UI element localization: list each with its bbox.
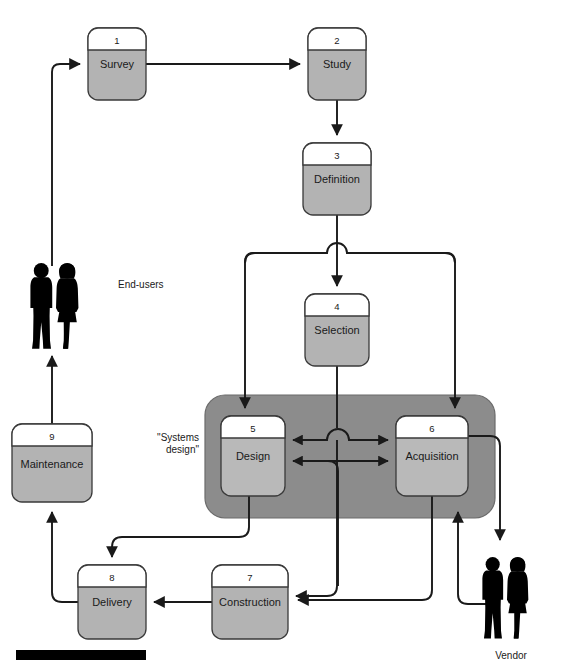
node-design-label: Design — [236, 450, 270, 462]
node-study[interactable]: 2 Study — [308, 28, 366, 100]
node-acquisition[interactable]: 6 Acquisition — [396, 416, 468, 496]
flow-delivery-to-maintenance — [52, 512, 78, 602]
node-acquisition-number: 6 — [429, 423, 434, 434]
node-construction-number: 7 — [247, 572, 252, 583]
node-selection[interactable]: 4 Selection — [305, 294, 369, 366]
flow-diagram: 1 Survey 2 Study 3 Definition 4 — [0, 0, 563, 666]
node-design-number: 5 — [250, 423, 255, 434]
vendor-label: Vendor — [495, 650, 527, 661]
node-definition-number: 3 — [334, 150, 339, 161]
node-survey-number: 1 — [114, 35, 119, 46]
node-construction-label: Construction — [219, 596, 281, 608]
connector-layer — [52, 64, 500, 604]
node-definition[interactable]: 3 Definition — [303, 143, 371, 215]
node-definition-label: Definition — [314, 173, 360, 185]
flow-definition-to-acquisition — [447, 253, 455, 408]
systems-design-label: "Systems design" — [157, 432, 199, 455]
node-construction[interactable]: 7 Construction — [212, 565, 288, 639]
actor-vendor: Vendor — [482, 557, 528, 661]
vendor-man-icon — [482, 557, 503, 638]
node-maintenance-number: 9 — [49, 431, 54, 442]
systems-design-label-line1: "Systems — [157, 432, 199, 443]
footer-bar — [16, 650, 146, 660]
vendor-woman-icon — [507, 557, 528, 639]
person-woman-icon — [56, 263, 78, 349]
node-delivery[interactable]: 8 Delivery — [78, 565, 146, 639]
node-maintenance[interactable]: 9 Maintenance — [12, 424, 92, 502]
node-delivery-number: 8 — [109, 572, 114, 583]
person-man-icon — [30, 263, 52, 349]
end-users-label: End-users — [118, 279, 164, 290]
systems-design-label-line2: design" — [166, 444, 199, 455]
fanout-corner-left — [245, 253, 255, 263]
fanout-corner-right — [445, 253, 455, 263]
node-study-number: 2 — [334, 35, 339, 46]
node-study-label: Study — [323, 58, 352, 70]
actor-end-users: End-users — [30, 263, 163, 349]
node-survey-label: Survey — [100, 58, 135, 70]
node-acquisition-label: Acquisition — [405, 450, 458, 462]
diagram-canvas: 1 Survey 2 Study 3 Definition 4 — [0, 0, 563, 666]
flow-endusers-to-survey — [52, 64, 80, 266]
flow-definition-to-design — [245, 253, 253, 408]
node-survey[interactable]: 1 Survey — [88, 28, 146, 100]
node-maintenance-label: Maintenance — [21, 458, 84, 470]
flow-definition-fanout-bar — [253, 243, 447, 253]
node-selection-label: Selection — [314, 324, 359, 336]
node-layer: 1 Survey 2 Study 3 Definition 4 — [12, 28, 468, 639]
node-delivery-label: Delivery — [92, 596, 132, 608]
node-design[interactable]: 5 Design — [221, 416, 285, 496]
node-selection-number: 4 — [334, 301, 339, 312]
